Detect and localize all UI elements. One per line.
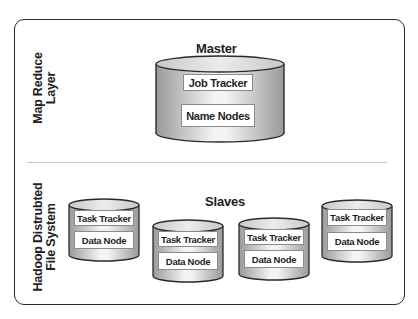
task-tracker-box: Task Tracker	[74, 210, 134, 226]
hdfs-layer-label: Hadoop Distrubted File System	[32, 175, 60, 299]
data-node-box: Data Node	[244, 250, 304, 268]
task-tracker-box: Task Tracker	[158, 231, 218, 247]
slave-node-2: Task Tracker Data Node	[152, 219, 224, 285]
label-line-2: File System	[45, 175, 58, 299]
data-node-box: Data Node	[158, 252, 218, 270]
slave-node-1: Task Tracker Data Node	[68, 198, 140, 264]
slave-node-3: Task Tracker Data Node	[238, 217, 310, 283]
master-heading: Master	[196, 41, 237, 56]
label-line-2: Layer	[45, 43, 58, 133]
master-cylinder: Job Tracker Name Nodes	[155, 55, 285, 145]
map-reduce-layer-label: Map Reduce Layer	[32, 43, 60, 133]
data-node-box: Data Node	[327, 232, 387, 251]
layer-divider	[27, 162, 387, 163]
task-tracker-box: Task Tracker	[327, 209, 387, 226]
name-nodes-box: Name Nodes	[181, 104, 255, 127]
job-tracker-box: Job Tracker	[183, 74, 253, 91]
cylinder-shape-icon	[155, 55, 285, 145]
task-tracker-box: Task Tracker	[244, 229, 304, 245]
slaves-heading: Slaves	[205, 194, 245, 209]
data-node-box: Data Node	[74, 231, 134, 249]
slave-node-4: Task Tracker Data Node	[321, 199, 393, 265]
